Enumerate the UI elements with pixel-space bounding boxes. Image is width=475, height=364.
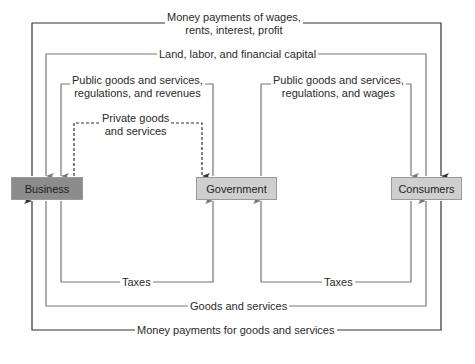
label-gov-to-business: Public goods and services,regulations, a… — [70, 74, 205, 100]
label-factors: Land, labor, and financial capital — [157, 48, 318, 61]
node-consumers: Consumers — [391, 177, 462, 200]
label-consumer-taxes: Taxes — [322, 276, 355, 289]
label-private-goods: Private goodsand services — [100, 112, 171, 138]
label-business-taxes: Taxes — [120, 276, 153, 289]
label-goods-services: Goods and services — [188, 300, 289, 313]
label-money-wages: Money payments of wages,rents, interest,… — [165, 11, 303, 37]
label-gov-to-consumers: Public goods and services,regulations, a… — [271, 74, 406, 100]
node-government: Government — [196, 177, 277, 200]
node-business: Business — [11, 177, 83, 200]
label-money-goods: Money payments for goods and services — [135, 324, 337, 337]
